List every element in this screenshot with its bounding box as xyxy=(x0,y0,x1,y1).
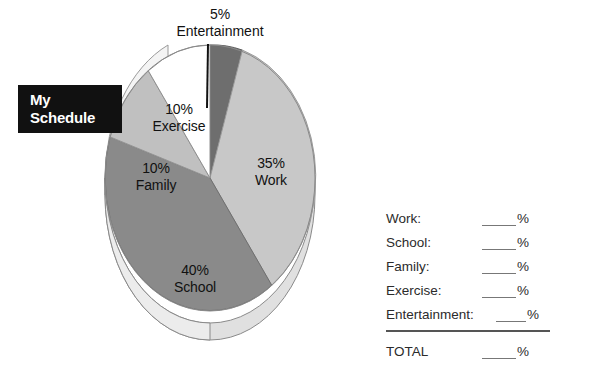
title-banner: My Schedule xyxy=(18,85,122,133)
worksheet-row-family-label: Family: xyxy=(386,255,430,279)
entertainment-leader-line xyxy=(207,44,208,108)
worksheet-row-entertainment-percent-sign: % xyxy=(527,303,539,327)
slice-label-exercise-name: Exercise xyxy=(136,118,222,135)
worksheet-row-entertainment-blank[interactable] xyxy=(496,321,526,322)
worksheet-row-total-percent-sign: % xyxy=(517,340,529,364)
worksheet-row-exercise-label: Exercise: xyxy=(386,279,442,303)
worksheet-row-total-blank[interactable] xyxy=(482,358,516,359)
slice-label-work-name: Work xyxy=(236,172,306,189)
worksheet-row-exercise-blank[interactable] xyxy=(482,297,516,298)
worksheet-row-school: School: % xyxy=(386,231,561,255)
worksheet-row-family: Family: % xyxy=(386,255,561,279)
worksheet-row-exercise-percent-sign: % xyxy=(517,279,529,303)
worksheet-row-work: Work: % xyxy=(386,207,561,231)
worksheet-row-work-blank[interactable] xyxy=(482,225,516,226)
pie-chart: 35% Work 40% School 10% Family 10% Exerc… xyxy=(0,0,370,377)
slice-label-family-name: Family xyxy=(118,177,194,194)
slice-label-work: 35% Work xyxy=(236,155,306,189)
slice-label-family-percent: 10% xyxy=(118,160,194,177)
slice-label-entertainment-name: Entertainment xyxy=(138,23,302,40)
slice-label-work-percent: 35% xyxy=(236,155,306,172)
slice-label-school: 40% School xyxy=(155,262,235,296)
title-banner-line1: My xyxy=(30,91,95,109)
worksheet-row-school-blank[interactable] xyxy=(482,249,516,250)
worksheet-row-family-percent-sign: % xyxy=(517,255,529,279)
worksheet-row-entertainment: Entertainment: % xyxy=(386,303,561,327)
worksheet-row-entertainment-label: Entertainment: xyxy=(386,303,474,327)
slice-label-school-name: School xyxy=(155,279,235,296)
slice-label-entertainment: 5% Entertainment xyxy=(138,6,302,40)
worksheet-row-family-blank[interactable] xyxy=(482,273,516,274)
worksheet-row-work-label: Work: xyxy=(386,207,421,231)
worksheet-total-divider xyxy=(386,330,550,332)
worksheet-table: Work: % School: % Family: % Exercise: % … xyxy=(386,207,561,327)
slice-label-exercise: 10% Exercise xyxy=(136,101,222,135)
worksheet-row-total: TOTAL % xyxy=(386,340,561,364)
schedule-worksheet: 35% Work 40% School 10% Family 10% Exerc… xyxy=(0,0,609,377)
slice-label-school-percent: 40% xyxy=(155,262,235,279)
title-banner-text: My Schedule xyxy=(30,91,95,127)
slice-label-exercise-percent: 10% xyxy=(136,101,222,118)
worksheet-row-school-percent-sign: % xyxy=(517,231,529,255)
title-banner-line2: Schedule xyxy=(30,109,95,127)
slice-label-family: 10% Family xyxy=(118,160,194,194)
worksheet-row-total-label: TOTAL xyxy=(386,340,428,364)
worksheet-row-exercise: Exercise: % xyxy=(386,279,561,303)
slice-label-entertainment-percent: 5% xyxy=(138,6,302,23)
worksheet-row-school-label: School: xyxy=(386,231,431,255)
worksheet-row-work-percent-sign: % xyxy=(517,207,529,231)
